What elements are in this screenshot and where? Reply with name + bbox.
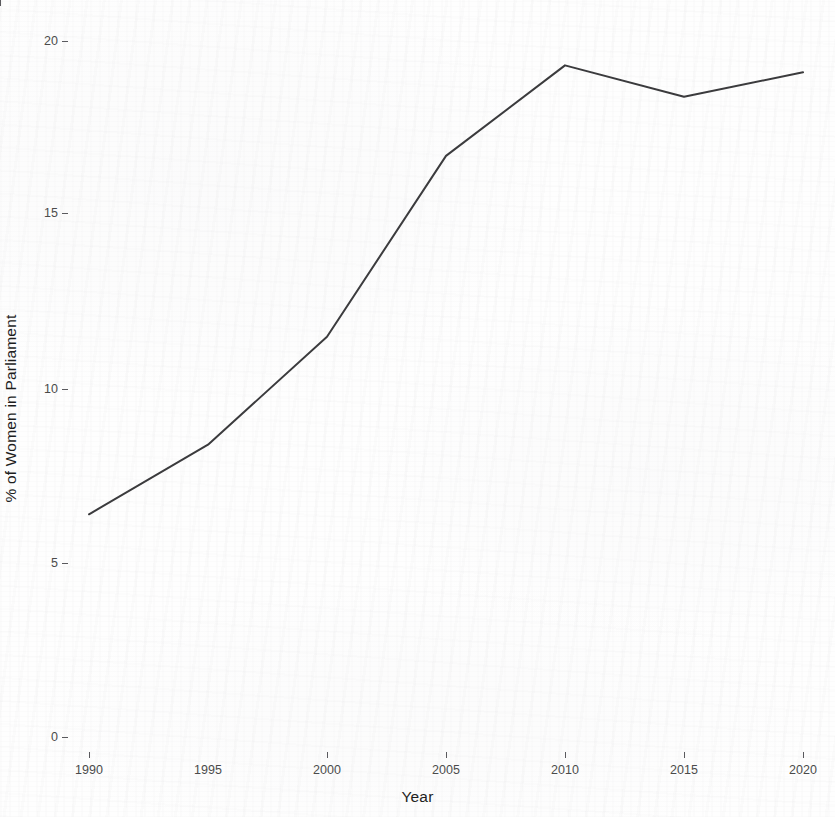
y-tick-label-20: 20 <box>18 34 58 48</box>
x-tick-label-2010: 2010 <box>535 763 595 777</box>
y-tick-mark-20 <box>62 41 68 42</box>
y-axis-title: % of Women in Parliament <box>0 0 22 817</box>
x-tick-mark-2005 <box>446 752 447 758</box>
y-tick-mark-10 <box>62 389 68 390</box>
x-tick-mark-1990 <box>89 752 90 758</box>
y-tick-label-0: 0 <box>18 730 58 744</box>
y-tick-label-10: 10 <box>18 382 58 396</box>
x-axis-title: Year <box>0 788 835 806</box>
x-tick-label-2020: 2020 <box>773 763 833 777</box>
x-tick-mark-2020 <box>803 752 804 758</box>
x-tick-label-2000: 2000 <box>297 763 357 777</box>
y-tick-label-5: 5 <box>18 556 58 570</box>
y-tick-mark-0 <box>62 737 68 738</box>
x-tick-label-1990: 1990 <box>59 763 119 777</box>
x-tick-label-2015: 2015 <box>654 763 714 777</box>
x-tick-mark-2000 <box>327 752 328 758</box>
x-tick-mark-2010 <box>565 752 566 758</box>
plot-area <box>0 0 835 817</box>
y-tick-label-15: 15 <box>18 206 58 220</box>
x-tick-mark-1995 <box>0 0 1 6</box>
x-tick-label-1995: 1995 <box>178 763 238 777</box>
y-tick-mark-15 <box>62 213 68 214</box>
y-tick-mark-5 <box>62 563 68 564</box>
x-tick-label-2005: 2005 <box>416 763 476 777</box>
x-tick-mark-2015 <box>684 752 685 758</box>
chart-canvas: % of Women in Parliament Year 20 15 10 5… <box>0 0 835 817</box>
data-line-women-in-parliament <box>89 65 803 514</box>
